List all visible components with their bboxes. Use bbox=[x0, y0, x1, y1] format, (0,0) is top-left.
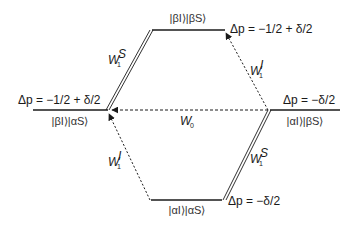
energy-left: Δp = −1/2 + δ/2 bbox=[18, 93, 101, 107]
svg-text:1: 1 bbox=[259, 72, 263, 79]
energy-top: Δp = −1/2 + δ/2 bbox=[230, 22, 313, 36]
label-w1s-lower: W S 1 bbox=[250, 146, 268, 167]
svg-text:1: 1 bbox=[117, 61, 121, 68]
label-w1i-lower: W I 1 bbox=[108, 149, 122, 170]
label-w0: W 0 bbox=[180, 114, 194, 129]
energy-bottom: Δp = −δ/2 bbox=[228, 194, 280, 208]
label-w1s-upper: W S 1 bbox=[108, 47, 126, 68]
state-right: |αI⟩|βS⟩ bbox=[287, 115, 324, 127]
svg-text:0: 0 bbox=[190, 122, 194, 129]
svg-text:I: I bbox=[118, 149, 122, 163]
transition-w1s-upper bbox=[106, 30, 153, 110]
energy-right: Δp = −δ/2 bbox=[283, 93, 335, 107]
svg-text:S: S bbox=[118, 47, 126, 61]
svg-text:S: S bbox=[260, 146, 268, 160]
svg-text:1: 1 bbox=[259, 160, 263, 167]
svg-text:I: I bbox=[260, 58, 264, 72]
label-w1i-upper: W I 1 bbox=[250, 58, 264, 79]
state-left: |βI⟩|αS⟩ bbox=[52, 115, 89, 127]
transition-diagram: |βI⟩|βS⟩ |βI⟩|αS⟩ |αI⟩|βS⟩ |αI⟩|αS⟩ Δp =… bbox=[0, 0, 356, 230]
state-bottom: |αI⟩|αS⟩ bbox=[169, 204, 206, 216]
svg-text:1: 1 bbox=[117, 163, 121, 170]
state-top: |βI⟩|βS⟩ bbox=[170, 12, 207, 24]
